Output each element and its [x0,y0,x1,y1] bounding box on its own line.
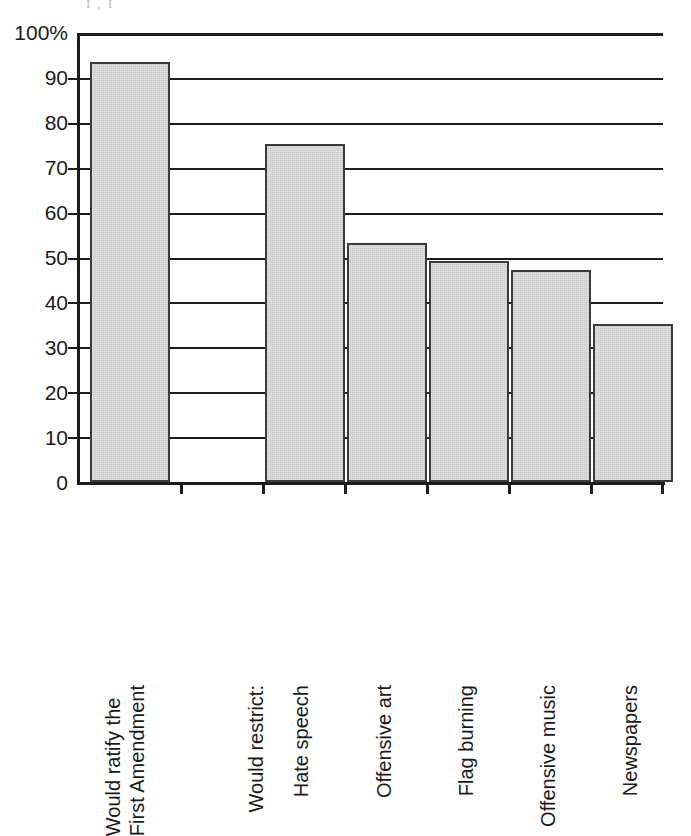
y-axis-label-90: 90 [8,67,68,88]
gridline-100 [77,33,663,36]
x-tick-2 [262,482,265,494]
x-label-line-1: Would ratify the [102,698,124,836]
y-tick-10 [68,437,78,439]
y-axis-label-30: 30 [8,337,68,358]
y-tick-50 [68,258,78,260]
x-label-line-1: Newspapers [619,685,641,796]
plot-area [77,33,663,482]
y-axis-label-50: 50 [8,247,68,268]
y-tick-30 [68,347,78,349]
y-axis-label-60: 60 [8,202,68,223]
y-tick-70 [68,168,78,170]
bar-offensive-art [347,243,427,482]
x-axis-category-labels: Would ratify the First Amendment Would r… [77,486,663,689]
y-tick-80 [68,123,78,125]
bar-hate-speech [265,144,345,482]
x-label-would-restrict: Would restrict: [244,685,268,812]
x-tick-6 [590,482,593,494]
x-label-line-1: Flag burning [455,685,477,796]
x-label-flag-burning: Flag burning [454,685,478,796]
x-axis-line [77,482,665,485]
x-label-offensive-music: Offensive music [536,685,560,827]
x-label-line-2: First Amendment [125,685,149,836]
y-axis-label-0: 0 [8,472,68,493]
x-tick-5 [508,482,511,494]
x-tick-1 [180,482,183,494]
y-axis-label-70: 70 [8,157,68,178]
y-axis-label-100: 100% [8,22,68,43]
bar-would-ratify-first-amendment [90,62,170,482]
x-label-newspapers: Newspapers [618,685,642,796]
x-label-would-ratify-first-amendment: Would ratify the First Amendment [101,685,149,836]
x-label-offensive-art: Offensive art [372,685,396,798]
x-tick-3 [344,482,347,494]
y-axis-label-20: 20 [8,382,68,403]
x-label-line-1: Offensive music [537,685,559,827]
y-tick-40 [68,302,78,304]
y-axis-label-10: 10 [8,427,68,448]
bar-offensive-music [511,270,591,482]
y-tick-60 [68,213,78,215]
bar-flag-burning [429,261,509,482]
x-label-line-1: Hate speech [290,685,312,797]
x-label-hate-speech: Hate speech [289,685,313,797]
y-tick-20 [68,392,78,394]
y-axis-label-80: 80 [8,112,68,133]
bar-newspapers [593,324,673,483]
x-tick-4 [426,482,429,494]
x-tick-7 [661,482,664,494]
x-label-line-1: Would restrict: [245,685,267,812]
y-tick-90 [68,78,78,80]
x-label-line-1: Offensive art [373,685,395,798]
y-axis-label-40: 40 [8,292,68,313]
